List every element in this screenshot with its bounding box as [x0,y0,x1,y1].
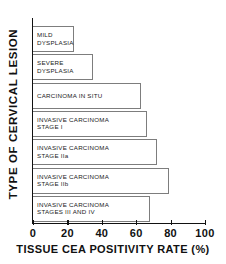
bar-row: INVASIVE CARCINOMA STAGE IIa [33,139,205,165]
bar-row: CARCINOMA IN SITU [33,83,205,109]
bar-row: INVASIVE CARCINOMA STAGE IIb [33,168,205,194]
bar-label: INVASIVE CARCINOMA STAGES III AND IV [37,201,109,216]
x-axis-title-text: TISSUE CEA POSITIVITY RATE (%) [16,243,209,255]
y-axis-title: TYPE OF CERVICAL LESION [0,0,26,228]
bar-row: SEVERE DYSPLASIA [33,54,205,80]
bar-row: MILD DYSPLASIA [33,26,205,52]
bar: SEVERE DYSPLASIA [33,54,93,80]
bars-group: MILD DYSPLASIASEVERE DYSPLASIACARCINOMA … [33,18,205,224]
x-tick [102,220,103,225]
bar-label: INVASIVE CARCINOMA STAGE IIb [37,173,109,188]
bar-label: INVASIVE CARCINOMA STAGE IIa [37,145,109,160]
bar: INVASIVE CARCINOMA STAGES III AND IV [33,196,150,222]
bar: CARCINOMA IN SITU [33,83,141,109]
x-tick [171,220,172,225]
x-tick-label: 0 [30,227,36,239]
bar-row: INVASIVE CARCINOMA STAGE I [33,111,205,137]
bar: INVASIVE CARCINOMA STAGE I [33,111,147,137]
x-tick [136,220,137,225]
bar: INVASIVE CARCINOMA STAGE IIa [33,139,157,165]
bar-label: MILD DYSPLASIA [37,31,74,46]
bar-chart-figure: TYPE OF CERVICAL LESION MILD DYSPLASIASE… [0,0,226,264]
x-tick-label: 20 [61,227,74,239]
y-axis-title-text: TYPE OF CERVICAL LESION [7,29,19,200]
bar-label: SEVERE DYSPLASIA [37,60,74,75]
x-tick [67,220,68,225]
x-tick [33,220,34,225]
x-tick-label: 60 [130,227,143,239]
x-tick [205,220,206,225]
bar: MILD DYSPLASIA [33,26,74,52]
bar: INVASIVE CARCINOMA STAGE IIb [33,168,169,194]
x-tick-label: 100 [195,227,214,239]
x-axis-title: TISSUE CEA POSITIVITY RATE (%) [0,243,226,255]
x-tick-label: 80 [164,227,177,239]
bar-row: INVASIVE CARCINOMA STAGES III AND IV [33,196,205,222]
plot-area: MILD DYSPLASIASEVERE DYSPLASIACARCINOMA … [33,18,205,224]
x-tick-label: 40 [95,227,108,239]
bar-label: CARCINOMA IN SITU [37,92,102,100]
bar-label: INVASIVE CARCINOMA STAGE I [37,116,109,131]
